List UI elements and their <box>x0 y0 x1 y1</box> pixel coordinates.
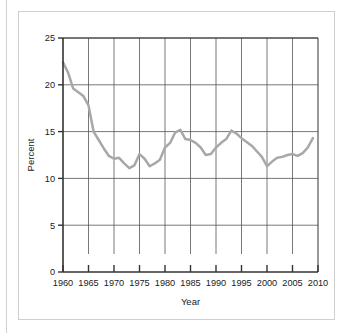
y-axis-tick-label: 25 <box>45 33 55 43</box>
y-axis-tick-label: 15 <box>45 127 55 137</box>
y-axis-tick-label: 5 <box>50 221 55 231</box>
x-axis-label: Year <box>181 296 200 307</box>
x-axis-tick-label: 1985 <box>180 278 200 288</box>
x-axis-tick-label: 1980 <box>155 278 175 288</box>
x-axis-tick-label: 2000 <box>257 278 277 288</box>
x-axis-tick-label: 1995 <box>231 278 251 288</box>
x-axis-tick-label: 1965 <box>78 278 98 288</box>
y-axis-tick-label: 0 <box>50 267 55 277</box>
y-axis-tick-label: 20 <box>45 80 55 90</box>
x-axis-tick-label: 1960 <box>53 278 73 288</box>
line-chart: 0510152025196019651970197519801985199019… <box>0 0 352 333</box>
chart-canvas: 0510152025196019651970197519801985199019… <box>0 0 352 333</box>
x-axis-tick-label: 2010 <box>308 278 328 288</box>
y-axis-label: Percent <box>25 138 36 171</box>
x-axis-tick-label: 1990 <box>206 278 226 288</box>
x-axis-tick-label: 1975 <box>129 278 149 288</box>
x-axis-tick-label: 2005 <box>282 278 302 288</box>
y-axis-tick-label: 10 <box>45 174 55 184</box>
x-axis-tick-label: 1970 <box>104 278 124 288</box>
data-line-series-0 <box>63 62 313 168</box>
